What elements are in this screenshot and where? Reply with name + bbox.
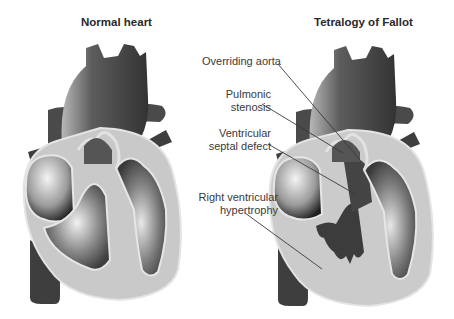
- label-overriding-aorta: Overriding aorta: [202, 55, 281, 68]
- normal-heart: [24, 44, 181, 304]
- title-tetralogy-of-fallot: Tetralogy of Fallot: [314, 16, 413, 28]
- label-pulmonic-stenosis: Pulmonic stenosis: [213, 88, 271, 113]
- heart-diagram: [0, 0, 454, 319]
- label-right-ventricular-hypertrophy: Right ventricular hypertrophy: [190, 191, 278, 216]
- title-normal-heart: Normal heart: [81, 16, 152, 28]
- right-atrium: [26, 155, 74, 221]
- label-ventricular-septal-defect: Ventricular septal defect: [195, 127, 271, 152]
- tof-heart: [270, 46, 433, 306]
